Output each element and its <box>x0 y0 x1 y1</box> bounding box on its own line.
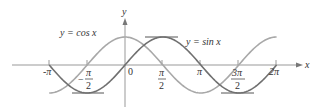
svg-text:3π: 3π <box>231 67 243 78</box>
tick-label-neg-pi: -π <box>43 66 52 77</box>
cos-sin-graph: y = cos x y = sin x x y 0 -π − π 2 π 2 π… <box>0 0 315 112</box>
x-axis-arrow-icon <box>296 63 303 68</box>
origin-label: 0 <box>128 66 133 77</box>
tick-label-neg-pi-half: − π 2 <box>78 67 93 91</box>
svg-text:π: π <box>159 67 165 78</box>
svg-text:−: − <box>78 74 84 85</box>
svg-text:2: 2 <box>86 80 91 91</box>
tick-label-3pi-half: 3π 2 <box>231 67 245 91</box>
y-axis-label: y <box>121 6 127 17</box>
sin-label: y = sin x <box>185 36 221 47</box>
svg-text:2: 2 <box>235 80 240 91</box>
svg-text:2: 2 <box>159 80 164 91</box>
x-axis-label: x <box>304 59 310 70</box>
cos-label: y = cos x <box>59 27 97 38</box>
tick-label-2pi: 2π <box>269 66 280 77</box>
y-axis-arrow-icon <box>123 18 128 25</box>
svg-text:π: π <box>86 67 92 78</box>
tick-label-pi-half: π 2 <box>158 67 166 91</box>
